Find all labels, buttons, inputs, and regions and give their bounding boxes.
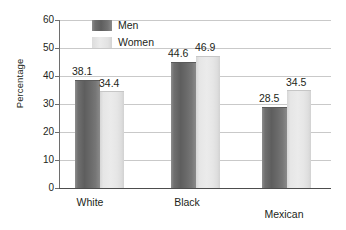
value-label-mexican-american-women: 34.5 xyxy=(286,77,306,88)
x-tick-label-mexican-american-line1: Mexican xyxy=(264,208,303,220)
value-label-white-women: 34.4 xyxy=(99,78,119,89)
y-tick-mark-20 xyxy=(55,132,59,133)
x-tick-label-white: White xyxy=(60,196,120,208)
y-axis-line xyxy=(59,20,60,189)
y-tick-mark-60 xyxy=(55,20,59,21)
value-label-black-women: 46.9 xyxy=(195,42,215,53)
bar-white-men[interactable] xyxy=(75,80,100,188)
y-tick-label-10: 10 xyxy=(14,155,54,165)
y-tick-mark-30 xyxy=(55,104,59,105)
value-label-white-men: 38.1 xyxy=(72,66,92,77)
bar-black-men[interactable] xyxy=(171,62,196,188)
bar-mexican-american-women[interactable] xyxy=(287,90,311,188)
bar-black-women[interactable] xyxy=(196,56,220,188)
y-tick-mark-0 xyxy=(55,188,59,189)
y-tick-mark-40 xyxy=(55,76,59,77)
bar-white-women[interactable] xyxy=(100,91,124,188)
value-label-black-men: 44.6 xyxy=(168,48,188,59)
value-label-mexican-american-men: 28.5 xyxy=(259,93,279,104)
y-tick-label-50: 50 xyxy=(14,43,54,53)
y-tick-mark-50 xyxy=(55,48,59,49)
y-tick-mark-10 xyxy=(55,160,59,161)
legend-swatch-men-icon xyxy=(92,20,112,31)
y-tick-label-40: 40 xyxy=(14,71,54,81)
y-tick-label-60: 60 xyxy=(14,15,54,25)
y-tick-label-0: 0 xyxy=(14,183,54,193)
bar-mexican-american-men[interactable] xyxy=(262,107,287,188)
y-tick-label-30: 30 xyxy=(14,99,54,109)
y-tick-label-20: 20 xyxy=(14,127,54,137)
legend-label-men: Men xyxy=(118,19,138,32)
legend-swatch-women-icon xyxy=(92,37,112,48)
x-tick-label-black: Black xyxy=(157,196,217,208)
bar-chart: Percentage 38.1 34.4 44.6 46.9 28.5 34.5 xyxy=(0,0,346,230)
legend-label-women: Women xyxy=(118,36,154,49)
x-tick-label-mexican-american: Mexican American xyxy=(249,196,319,230)
x-axis-line xyxy=(59,188,331,189)
